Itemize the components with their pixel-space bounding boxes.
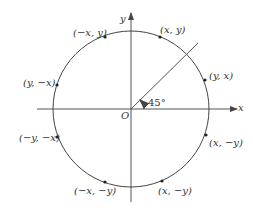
origin-label: O: [121, 110, 129, 121]
x-axis-label: x: [238, 102, 244, 113]
point-label-negx-negy: (−x, −y): [74, 185, 116, 196]
point-label-x-y: (x, y): [160, 24, 186, 35]
point-label-y-negx: (y, −x): [23, 77, 56, 88]
y-axis-label: y: [119, 13, 126, 24]
angle-label: 45°: [148, 97, 166, 108]
point-dot-y-negx: [55, 83, 58, 86]
point-dot-negx-negy: [103, 180, 106, 183]
point-label-x-negy-right: (x, −y): [209, 137, 243, 148]
angle-arc-icon: [140, 100, 144, 109]
point-dot-x-negy-bottom: [160, 179, 163, 182]
point-label-negy-negx: (−y, −x): [19, 132, 60, 143]
point-label-negx-y: (−x, y): [73, 27, 107, 38]
point-dot-x-y: [158, 35, 161, 38]
unit-circle-diagram: y x O 45° (x, y) (y, x) (−x, y) (y, −x) …: [0, 0, 253, 210]
point-label-y-x: (y, x): [209, 70, 233, 81]
point-dot-y-x: [203, 78, 206, 81]
point-dot-x-negy-right: [204, 133, 207, 136]
point-label-x-negy-bottom: (x, −y): [158, 185, 192, 196]
